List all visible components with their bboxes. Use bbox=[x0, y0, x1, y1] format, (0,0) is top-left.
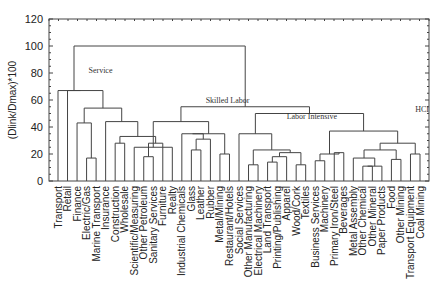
dendrogram-chart: (Dlink/Dmax)*100 020406080100120 Transpo… bbox=[0, 0, 442, 288]
dendrogram-link bbox=[380, 143, 415, 154]
dendrogram-link bbox=[182, 134, 203, 181]
y-tick-label: 120 bbox=[25, 13, 43, 25]
dendrogram-link bbox=[84, 108, 122, 123]
dendrogram-link bbox=[239, 134, 272, 181]
dendrogram-link bbox=[196, 139, 210, 181]
y-tick-label: 100 bbox=[25, 40, 43, 52]
dendrogram-link bbox=[410, 154, 420, 181]
cluster-annotation: Skilled Labor bbox=[206, 96, 250, 105]
dendrogram-link bbox=[368, 166, 382, 181]
y-tick-label: 20 bbox=[31, 148, 43, 160]
dendrogram-link bbox=[296, 165, 306, 181]
y-tick-label: 0 bbox=[37, 175, 43, 187]
dendrogram-link bbox=[193, 134, 225, 154]
dendrogram-link bbox=[279, 153, 300, 165]
dendrogram-link bbox=[353, 158, 374, 181]
dendrogram-link bbox=[77, 123, 91, 181]
y-tick-label: 40 bbox=[31, 121, 43, 133]
cluster-annotation: Service bbox=[88, 66, 112, 75]
dendrogram-link bbox=[191, 150, 201, 181]
cluster-annotation: Labor Intensive bbox=[287, 112, 338, 121]
leaf-label: Coal Mining bbox=[415, 186, 426, 239]
y-tick-label: 80 bbox=[31, 67, 43, 79]
dendrogram-link bbox=[363, 166, 373, 181]
dendrogram-link bbox=[68, 91, 81, 181]
cluster-annotations: ServiceSkilled LaborLabor IntensiveHCI bbox=[88, 66, 429, 121]
dendrogram-link bbox=[272, 157, 286, 181]
dendrogram-link bbox=[268, 162, 278, 181]
dendrogram-link bbox=[249, 165, 259, 181]
dendrogram-link bbox=[315, 161, 325, 181]
dendrogram-link bbox=[87, 158, 97, 181]
dendrogram-link bbox=[220, 154, 230, 181]
leaf-labels: TransportRetailFinanceElectric/GasMarine… bbox=[53, 185, 426, 279]
y-tick-label: 60 bbox=[31, 94, 43, 106]
dendrogram-link bbox=[149, 143, 163, 181]
y-axis-label: (Dlink/Dmax)*100 bbox=[7, 60, 18, 139]
dendrogram-link bbox=[106, 122, 138, 181]
dendrogram-link bbox=[391, 159, 401, 181]
dendrogram-link bbox=[120, 136, 156, 143]
dendrogram-link bbox=[334, 153, 344, 181]
cluster-annotation: HCI bbox=[415, 105, 429, 114]
dendrogram-link bbox=[144, 157, 154, 181]
dendrogram-link bbox=[115, 143, 125, 181]
